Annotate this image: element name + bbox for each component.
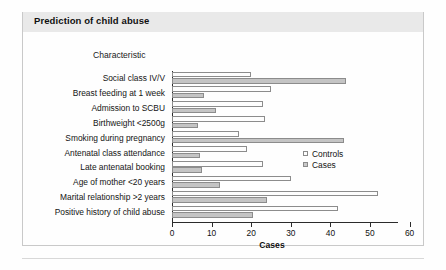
x-axis-tick (410, 222, 411, 227)
bar-controls (172, 101, 263, 107)
x-axis-tick (212, 222, 213, 227)
legend-item-controls: Controls (303, 148, 343, 159)
x-axis-line (172, 222, 398, 223)
figure-page: Prediction of child abuse Characteristic… (0, 0, 446, 270)
bar-cases (172, 167, 202, 173)
bar-cases (172, 212, 253, 218)
x-axis-tick-label: 10 (207, 228, 216, 238)
bar-controls (172, 161, 263, 167)
y-axis-label: Antenatal class attendance (64, 146, 165, 161)
bar-controls (172, 176, 291, 182)
bar-cases (172, 182, 220, 188)
y-axis-label: Birthweight <2500g (93, 116, 165, 131)
y-axis-label: Breast feeding at 1 week (73, 86, 165, 101)
bar-row (172, 190, 370, 205)
y-axis-label: Admission to SCBU (91, 101, 165, 116)
bar-cases (172, 93, 204, 99)
y-axis-label: Social class IV/V (103, 71, 165, 86)
bar-row (172, 175, 370, 190)
bar-row (172, 205, 370, 220)
bar-cases (172, 138, 344, 144)
x-axis-tick-label: 50 (365, 228, 374, 238)
legend-swatch-cases-icon (303, 162, 308, 167)
legend-swatch-controls-icon (303, 151, 308, 156)
bottom-rule (22, 258, 424, 259)
bar-controls (172, 146, 247, 152)
y-axis-label: Marital relationship >2 years (60, 190, 165, 205)
y-axis-tick-labels: Social class IV/VBreast feeding at 1 wee… (0, 71, 169, 220)
x-axis-tick (330, 222, 331, 227)
bar-row (172, 116, 370, 131)
bar-cases (172, 123, 198, 129)
bar-cases (172, 108, 216, 114)
bar-rows (172, 71, 370, 220)
x-axis-tick (172, 222, 173, 227)
bar-cases (172, 78, 346, 84)
x-axis-tick (291, 222, 292, 227)
bar-row (172, 71, 370, 86)
x-axis-tick (370, 222, 371, 227)
x-axis-tick-label: 30 (286, 228, 295, 238)
y-axis-label: Smoking during pregnancy (65, 131, 165, 146)
bar-cases (172, 153, 200, 159)
bar-cases (172, 197, 267, 203)
page-title: Prediction of child abuse (34, 15, 149, 26)
y-axis-label: Late antenatal booking (80, 160, 165, 175)
bar-controls (172, 206, 338, 212)
bar-controls (172, 86, 271, 92)
legend-label-cases: Cases (312, 160, 336, 170)
bar-row (172, 131, 370, 146)
chart-legend: Controls Cases (303, 148, 343, 170)
x-axis-tick-label: 60 (405, 228, 414, 238)
bar-row (172, 86, 370, 101)
legend-label-controls: Controls (312, 149, 343, 159)
x-axis-tick-label: 20 (247, 228, 256, 238)
bar-controls (172, 191, 378, 197)
y-axis-label: Age of mother <20 years (73, 175, 165, 190)
y-axis-label: Positive history of child abuse (55, 205, 165, 220)
x-axis-title: Cases (259, 240, 284, 250)
bar-controls (172, 116, 265, 122)
bar-row (172, 101, 370, 116)
plot-area (172, 71, 370, 220)
x-axis-tick-label: 40 (326, 228, 335, 238)
y-axis-heading: Characteristic (93, 50, 146, 60)
x-axis-tick (251, 222, 252, 227)
bar-controls (172, 72, 251, 78)
bar-controls (172, 131, 239, 137)
legend-item-cases: Cases (303, 159, 343, 170)
x-axis-tick-label: 0 (170, 228, 175, 238)
